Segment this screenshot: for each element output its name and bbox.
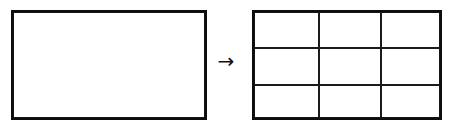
grid-rectangle[interactable] [252, 10, 442, 120]
plain-rectangle[interactable] [11, 10, 207, 120]
grid-cell-r2c3[interactable] [382, 49, 439, 84]
grid-cell-r3c3[interactable] [382, 86, 439, 117]
grid-cell-r2c1[interactable] [255, 49, 318, 84]
grid-lines [255, 13, 439, 117]
grid-cell-r3c1[interactable] [255, 86, 318, 117]
grid-cell-r3c2[interactable] [320, 86, 380, 117]
grid-cell-r1c3[interactable] [382, 13, 439, 47]
grid-cell-r2c2[interactable] [320, 49, 380, 84]
grid-cell-r1c2[interactable] [320, 13, 380, 47]
arrow-right-icon: → [213, 48, 239, 74]
figure-canvas: → [0, 0, 452, 134]
grid-cell-r1c1[interactable] [255, 13, 318, 47]
